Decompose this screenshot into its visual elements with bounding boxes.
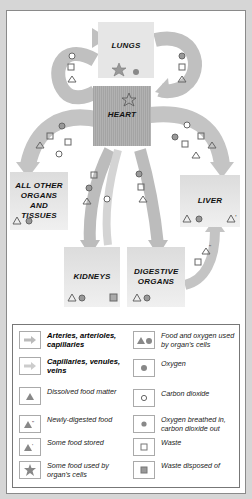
legend-item: Waste disposed of (133, 461, 237, 479)
svg-text:': ' (235, 214, 237, 220)
filled-square-icon (133, 461, 155, 479)
svg-text:": " (32, 420, 34, 426)
legend-item: Waste (133, 438, 237, 456)
organ-heart-label: HEART (93, 108, 151, 122)
legend-item: Some food used by organ's cells (19, 461, 127, 479)
triangle-double-prime-icon: " (19, 415, 41, 433)
legend-item: Dissolved food matter (19, 387, 127, 405)
left-lung-arrow (58, 54, 95, 97)
legend-item: Oxygen breathed in, carbon dioxide out (133, 415, 237, 433)
legend-item: Oxygen (133, 359, 237, 377)
legend-item: " Newly-digested food (19, 415, 127, 433)
organ-symbols (12, 216, 62, 226)
star-icon (19, 461, 41, 479)
triangle-icon (19, 387, 41, 405)
svg-text:': ' (32, 443, 33, 449)
oxygen-icon (133, 69, 139, 75)
organ-symbols: ' (182, 214, 240, 224)
organ-liver-label: LIVER (198, 196, 223, 206)
organ-all-other-label: ALL OTHER ORGANS AND TISSUES (10, 181, 68, 221)
arrow-light-icon (19, 357, 41, 375)
open-circle-icon (133, 389, 155, 407)
legend-item: Arteries, arterioles, capillaries (19, 331, 125, 349)
legend-item: Food and oxygen used by organ's cells (133, 331, 237, 349)
organ-symbols (131, 293, 171, 303)
triangle-circle-icon (133, 331, 155, 349)
organ-lungs-label: LUNGS (98, 36, 154, 56)
organ-digestive: DIGESTIVE ORGANS (127, 247, 185, 307)
legend-item: Capillaries, venules, veins (19, 357, 125, 375)
right-lung-arrow (155, 38, 195, 91)
organ-digestive-label: DIGESTIVE ORGANS (134, 267, 178, 287)
legend-item: Carbon dioxide (133, 389, 237, 407)
organ-kidneys: KIDNEYS (64, 247, 120, 307)
arrow-dark-icon (19, 331, 41, 349)
triangle-prime-icon: ' (19, 438, 41, 456)
oxygen-breathed-icon (133, 415, 155, 433)
open-square-icon (133, 438, 155, 456)
legend-item: ' Some food stored (19, 438, 127, 456)
legend: Arteries, arterioles, capillaries Capill… (12, 324, 240, 488)
svg-text:": " (209, 244, 211, 250)
organ-kidneys-label: KIDNEYS (74, 272, 111, 282)
filled-circle-icon (133, 359, 155, 377)
organ-all-other: ALL OTHER ORGANS AND TISSUES (10, 172, 68, 230)
organ-liver: LIVER ' (180, 175, 240, 227)
organ-symbols (66, 293, 120, 303)
